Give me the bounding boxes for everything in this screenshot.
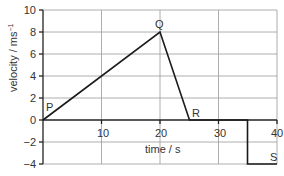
y-tick-labels: 10 8 6 4 2 0 −2 −4	[23, 4, 36, 170]
x-tick-20: 20	[155, 127, 167, 139]
x-tick-10: 10	[97, 127, 109, 139]
point-label-q: Q	[155, 18, 164, 30]
x-axis-title: time / s	[145, 143, 181, 155]
y-tick-2: 2	[30, 92, 36, 104]
point-label-p: P	[46, 101, 53, 113]
y-axis-title-group: velocity / ms−1	[7, 23, 19, 92]
x-tick-30: 30	[214, 127, 226, 139]
y-tick-0: 0	[30, 114, 36, 126]
y-axis-title: velocity / ms−1	[7, 23, 19, 92]
velocity-time-chart: 10 8 6 4 2 0 −2 −4 10 20 30 40 time / s …	[0, 0, 284, 176]
y-tick-6: 6	[30, 48, 36, 60]
y-axis-title-main: velocity / ms	[7, 31, 19, 92]
y-tick-10: 10	[24, 4, 36, 16]
y-tick-neg4: −4	[23, 158, 36, 170]
y-axis-title-superscript: −1	[7, 23, 14, 31]
x-tick-labels: 10 20 30 40	[97, 127, 283, 139]
y-tick-neg2: −2	[23, 136, 36, 148]
x-tick-40: 40	[271, 127, 283, 139]
point-label-s: S	[270, 151, 277, 163]
point-label-r: R	[192, 107, 200, 119]
y-tick-4: 4	[30, 70, 36, 82]
y-tick-8: 8	[30, 26, 36, 38]
